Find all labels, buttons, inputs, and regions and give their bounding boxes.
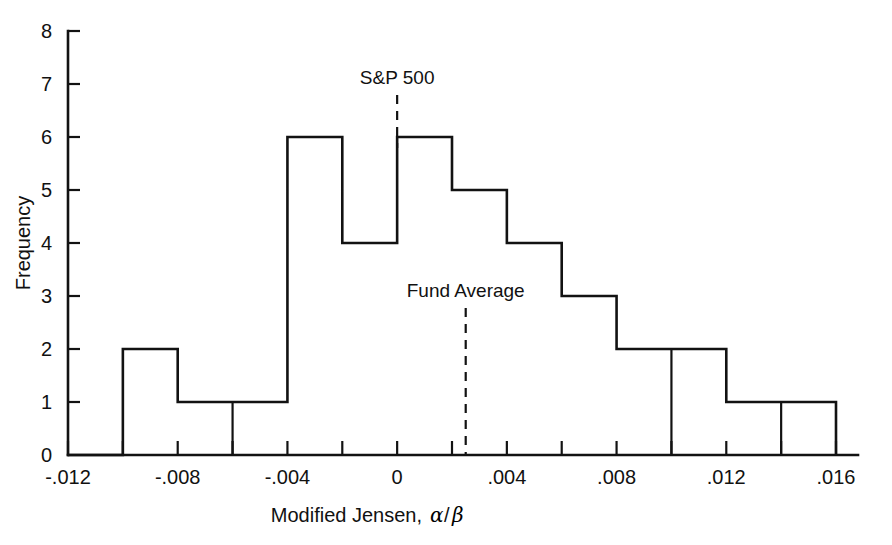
y-axis-ticks — [68, 31, 80, 402]
x-axis-tick-label: -.004 — [265, 466, 311, 488]
y-axis-tick-label: 0 — [41, 444, 52, 466]
x-axis-tick-label: -.012 — [45, 466, 91, 488]
x-axis-title-alpha: α — [430, 503, 444, 527]
x-axis-tick-label: .012 — [707, 466, 746, 488]
y-axis-tick-label: 2 — [41, 338, 52, 360]
y-axis-tick-label: 4 — [41, 232, 52, 254]
x-axis-title: Modified Jensen, α / β — [271, 503, 464, 527]
y-axis-tick-label: 8 — [41, 20, 52, 42]
x-axis-tick-label: .016 — [817, 466, 856, 488]
y-axis-tick-label: 5 — [41, 179, 52, 201]
x-axis-tick-label: .008 — [597, 466, 636, 488]
reference-markers: S&P 500Fund Average — [360, 67, 525, 455]
y-axis-title: Frequency — [12, 196, 34, 291]
y-axis-tick-label: 6 — [41, 126, 52, 148]
y-axis-tick-label: 3 — [41, 285, 52, 307]
y-axis-tick-label: 1 — [41, 391, 52, 413]
y-axis-tick-labels: 012345678 — [41, 20, 52, 466]
x-axis-ticks — [68, 441, 836, 455]
x-axis-title-beta: β — [451, 503, 464, 527]
chart-canvas: 012345678 -.012-.008-.0040.004.008.012.0… — [0, 0, 892, 545]
x-axis-tick-label: 0 — [392, 466, 403, 488]
histogram-chart: 012345678 -.012-.008-.0040.004.008.012.0… — [0, 0, 892, 545]
x-axis-title-slash: / — [444, 504, 450, 526]
x-axis-tick-labels: -.012-.008-.0040.004.008.012.016 — [45, 466, 855, 488]
fund-average-marker-label: Fund Average — [407, 280, 525, 301]
chart-axes — [68, 31, 858, 455]
sp500-marker-label: S&P 500 — [360, 67, 435, 88]
x-axis-title-text: Modified Jensen, — [271, 504, 422, 526]
x-axis-tick-label: .004 — [487, 466, 526, 488]
y-axis-tick-label: 7 — [41, 73, 52, 95]
x-axis-tick-label: -.008 — [155, 466, 201, 488]
